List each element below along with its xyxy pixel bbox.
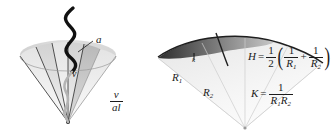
formula-h-term1: 1 R1	[284, 45, 298, 70]
left-cone-drawing	[0, 0, 167, 135]
close-paren: )	[324, 47, 330, 68]
label-r1-subscript: 1	[179, 77, 182, 84]
label-v: v	[72, 68, 76, 79]
formula-k-fraction: 1 R1R2	[269, 82, 293, 107]
label-r2-subscript: 2	[210, 92, 213, 99]
label-r2-letter: R	[203, 86, 210, 98]
formula-mean-curvature: H= 1 2 ( 1 R1 + 1 R2 )	[248, 45, 332, 70]
formula-h-term2: 1 R2	[309, 45, 323, 70]
formula-gaussian-curvature: K= 1 R1R2	[251, 82, 293, 107]
label-a: a	[96, 33, 102, 45]
curvature-figure: a v v al	[0, 0, 335, 135]
formula-h-lhs: H	[248, 50, 256, 62]
fraction-numerator: v	[110, 89, 123, 102]
open-paren: (	[277, 47, 283, 68]
formula-h-equals: =	[256, 50, 266, 62]
fraction-denominator: al	[110, 102, 123, 114]
formula-k-equals: =	[258, 87, 268, 99]
plus-operator: +	[298, 50, 308, 62]
one-half-denominator: 2	[266, 58, 276, 70]
label-r2: R2	[203, 86, 213, 99]
label-k: k	[192, 56, 195, 64]
label-r1: R1	[172, 71, 182, 84]
term2-denominator: R2	[309, 58, 323, 70]
cone-apex	[243, 126, 246, 129]
fraction-v-over-al: v al	[110, 89, 123, 113]
term1-denominator: R1	[284, 58, 298, 70]
label-r1-letter: R	[172, 71, 179, 83]
one-half-numerator: 1	[266, 45, 276, 58]
left-figure-panel: a v v al	[0, 0, 167, 135]
formula-h-one-half: 1 2	[266, 45, 276, 69]
formula-k-denominator: R1R2	[269, 95, 293, 107]
